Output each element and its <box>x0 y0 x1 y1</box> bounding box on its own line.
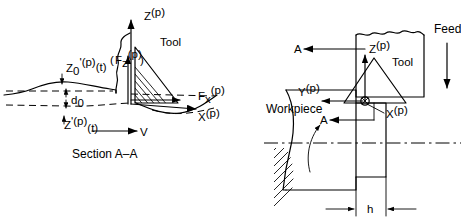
z-axis-label: Z(p) <box>144 6 165 22</box>
machined-step-outline <box>356 103 386 177</box>
feed-label: Feed <box>434 22 461 36</box>
left-view-group: Z(p) Fx(p) X(p) Fz(p) ( ) Tool Z0'(p)(t) <box>4 6 225 169</box>
z-axis-label-right: Z(p) <box>369 39 390 55</box>
section-mark-top: A <box>294 43 302 55</box>
section-caption: Section A–A <box>72 147 137 161</box>
force-x-label: Fx(p) <box>198 84 225 105</box>
force-z-open-paren: ( <box>110 54 114 66</box>
tool-label-left: Tool <box>160 36 181 48</box>
x-axis-arrow <box>131 104 196 109</box>
figure-root: Z(p) Fx(p) X(p) Fz(p) ( ) Tool Z0'(p)(t) <box>0 0 461 224</box>
machining-diagram: Z(p) Fx(p) X(p) Fz(p) ( ) Tool Z0'(p)(t) <box>0 0 461 224</box>
uncut-surface-profile <box>4 82 116 95</box>
h-dimension-label: h <box>367 203 373 215</box>
velocity-label: V <box>140 126 148 138</box>
workpiece-break-hatching <box>266 112 304 214</box>
x-axis-leader <box>367 104 384 113</box>
left-view-labels: Z(p) Fx(p) X(p) Fz(p) ( ) Tool Z0'(p)(t) <box>64 6 225 161</box>
x-axis-label: X(p) <box>198 107 220 123</box>
tool-label-right: Tool <box>392 56 413 68</box>
workpiece-label: Workpiece <box>266 102 323 116</box>
depth-of-cut-label: d0 <box>71 94 84 109</box>
y-axis-label: Y(p) <box>298 82 320 98</box>
rotation-arrow <box>308 125 320 172</box>
right-view-group: A A Z(p) Tool Y(p) X(p) Workpiece Feed h <box>264 22 461 216</box>
x-axis-label-right: X(p) <box>386 104 408 120</box>
current-surface-label: Z'(p)(t) <box>64 115 98 134</box>
tool-holder-broken-edge <box>356 31 424 36</box>
previous-surface-label: Z0'(p)(t) <box>66 56 107 77</box>
force-z-close-paren: ) <box>140 54 144 66</box>
current-surface-reference-line <box>6 103 130 106</box>
right-view-labels: A A Z(p) Tool Y(p) X(p) Workpiece Feed h <box>266 22 461 215</box>
